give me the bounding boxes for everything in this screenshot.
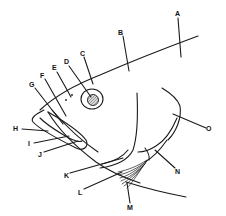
- fish-head-diagram: A B C D E F G H I J K L M N O: [0, 0, 226, 216]
- preopercle-outline: [100, 93, 138, 168]
- label-k: K: [64, 172, 69, 179]
- label-m: M: [127, 204, 133, 211]
- opercle-outline: [162, 88, 180, 140]
- subopercle-outline: [138, 118, 177, 152]
- ventral-outline: [126, 182, 186, 197]
- label-f: F: [40, 72, 45, 79]
- preopercle-inner: [102, 150, 128, 164]
- label-o: O: [206, 125, 212, 132]
- upper-jaw-outline: [32, 110, 87, 149]
- label-b: B: [118, 29, 123, 36]
- label-l: L: [78, 189, 83, 196]
- cheek-line: [52, 110, 98, 152]
- dorsal-outline: [40, 36, 198, 110]
- label-g: G: [29, 81, 35, 88]
- label-j: J: [38, 151, 42, 158]
- label-d: D: [64, 58, 69, 65]
- label-i: I: [28, 140, 30, 147]
- label-c: C: [80, 50, 85, 57]
- nostril-dot: [71, 94, 73, 96]
- label-a: A: [175, 10, 180, 17]
- label-h: H: [13, 125, 18, 132]
- label-e: E: [52, 64, 57, 71]
- eye-pupil: [88, 95, 99, 106]
- label-n: N: [175, 168, 180, 175]
- nostril-dot: [65, 99, 67, 101]
- leader-lines: [22, 18, 206, 203]
